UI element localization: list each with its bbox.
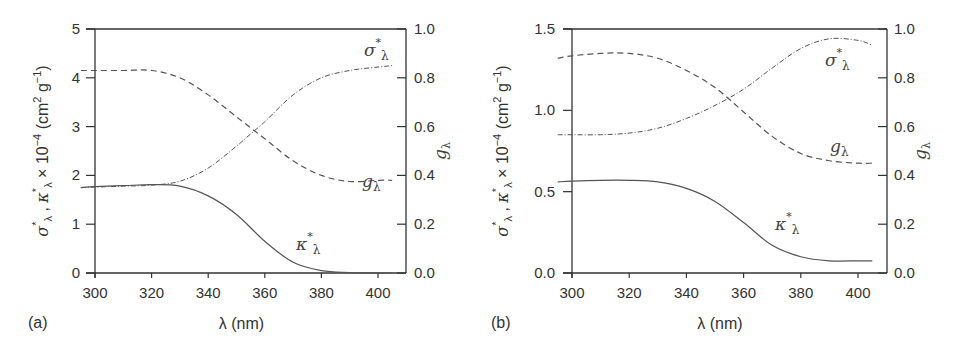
- series-line: [558, 180, 873, 261]
- right-y-tick-label: 1.0: [894, 20, 915, 37]
- left-y-tick-label: 0: [72, 264, 80, 281]
- left-y-tick-label: 2: [72, 166, 80, 183]
- right-y-tick-label: 0.2: [414, 215, 435, 232]
- chart-a-svg: 300320340360380400λ (nm)0123450.00.20.40…: [0, 0, 483, 363]
- right-y-tick-label: 0.6: [894, 118, 915, 135]
- right-y-tick-label: 1.0: [414, 20, 435, 37]
- plot-frame: [86, 29, 406, 278]
- right-y-tick-label: 0.4: [414, 166, 435, 183]
- chart-b-svg: 300320340360380400λ (nm)0.00.51.01.50.00…: [480, 0, 966, 363]
- x-tick-label: 400: [845, 284, 870, 301]
- series-line: [81, 185, 392, 273]
- x-tick-label: 340: [674, 284, 699, 301]
- x-axis-title: λ (nm): [219, 315, 264, 332]
- sigma-curve-label: σ*λ: [825, 46, 850, 73]
- chart-panel-b: 300320340360380400λ (nm)0.00.51.01.50.00…: [480, 0, 963, 363]
- chart-panel-a: 300320340360380400λ (nm)0123450.00.20.40…: [0, 0, 483, 363]
- right-y-tick-label: 0.4: [894, 166, 915, 183]
- x-tick-label: 380: [309, 284, 334, 301]
- left-y-axis-title: σ*λ , κ*λ × 10−4 (cm2 g−1): [30, 65, 54, 236]
- left-y-axis-ticks: 012345: [72, 20, 95, 281]
- left-y-tick-label: 3: [72, 118, 80, 135]
- right-y-tick-label: 0.2: [894, 215, 915, 232]
- kappa-curve-label: κ*λ: [774, 210, 800, 237]
- right-y-tick-label: 0.0: [894, 264, 915, 281]
- right-y-tick-label: 0.8: [894, 69, 915, 86]
- panel-letter: (a): [28, 314, 48, 331]
- right-y-tick-label: 0.6: [414, 118, 435, 135]
- right-y-axis-title: gλ: [910, 142, 933, 160]
- x-tick-label: 360: [252, 284, 277, 301]
- series-line: [81, 66, 392, 188]
- right-y-tick-label: 0.0: [414, 264, 435, 281]
- left-y-axis-ticks: 0.00.51.01.5: [534, 20, 572, 281]
- x-tick-label: 400: [365, 284, 390, 301]
- left-y-axis-title: σ*λ , κ*λ × 10−4 (cm2 g−1): [490, 65, 514, 236]
- curve-annotations: σ*λgλκ*λ: [295, 36, 389, 257]
- left-y-tick-label: 0.5: [534, 183, 555, 200]
- kappa-curve-label: κ*λ: [295, 230, 321, 257]
- g-curve-label: gλ: [362, 171, 381, 194]
- x-axis-ticks: 300320340360380400: [82, 273, 390, 301]
- x-tick-label: 340: [196, 284, 221, 301]
- panel-letter: (b): [491, 314, 511, 331]
- series-line: [81, 70, 392, 182]
- left-y-tick-label: 1: [72, 215, 80, 232]
- sigma-curve-label: σ*λ: [364, 36, 389, 63]
- left-y-tick-label: 5: [72, 20, 80, 37]
- right-y-axis-title: gλ: [430, 142, 453, 160]
- data-series: [558, 38, 873, 261]
- x-tick-label: 300: [559, 284, 584, 301]
- curve-annotations: σ*λgλκ*λ: [774, 46, 850, 237]
- x-axis-title: λ (nm): [697, 315, 742, 332]
- x-tick-label: 300: [82, 284, 107, 301]
- x-tick-label: 380: [788, 284, 813, 301]
- left-y-tick-label: 0.0: [534, 264, 555, 281]
- data-series: [81, 66, 392, 273]
- g-curve-label: gλ: [830, 136, 849, 159]
- left-y-tick-label: 4: [72, 69, 80, 86]
- right-y-tick-label: 0.8: [414, 69, 435, 86]
- x-tick-label: 320: [617, 284, 642, 301]
- left-y-tick-label: 1.5: [534, 20, 555, 37]
- x-tick-label: 320: [139, 284, 164, 301]
- x-tick-label: 360: [731, 284, 756, 301]
- x-axis-ticks: 300320340360380400: [559, 273, 870, 301]
- left-y-tick-label: 1.0: [534, 101, 555, 118]
